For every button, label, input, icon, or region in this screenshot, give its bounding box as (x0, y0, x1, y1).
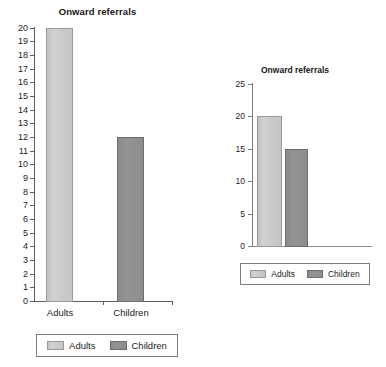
y-tick-mark (248, 84, 253, 85)
y-tick-mark (30, 164, 35, 165)
y-tick-label: 4 (6, 242, 28, 251)
y-tick-label: 15 (6, 92, 28, 101)
y-tick-label: 20 (223, 112, 245, 121)
y-tick-label: 1 (6, 283, 28, 292)
y-tick-label: 6 (6, 215, 28, 224)
y-tick-label: 20 (6, 24, 28, 33)
y-tick-label: 12 (6, 133, 28, 142)
y-tick-mark (248, 149, 253, 150)
legend-label-adults: Adults (69, 341, 95, 351)
y-tick-label: 9 (6, 174, 28, 183)
y-tick-mark (30, 82, 35, 83)
y-tick-mark (30, 260, 35, 261)
y-tick-mark (30, 123, 35, 124)
legend-label-adults: Adults (271, 269, 295, 279)
y-tick-mark (30, 28, 35, 29)
y-tick-mark (30, 274, 35, 275)
y-tick-mark (30, 192, 35, 193)
bar-chart-left: Onward referrals 0 1 2 3 4 5 6 7 8 9 10 … (0, 0, 195, 367)
y-tick-label: 18 (6, 51, 28, 60)
y-tick-label: 15 (223, 145, 245, 154)
y-tick-mark (30, 178, 35, 179)
y-tick-mark (30, 96, 35, 97)
x-category-label-adults: Adults (30, 307, 90, 318)
y-tick-mark (248, 214, 253, 215)
y-tick-mark (30, 233, 35, 234)
chart-title: Onward referrals (0, 6, 195, 17)
y-tick-mark (30, 287, 35, 288)
legend-swatch-children-icon (110, 341, 127, 350)
y-tick-mark (30, 246, 35, 247)
y-tick-mark (30, 205, 35, 206)
legend-swatch-adults-icon (47, 341, 64, 350)
chart-legend: Adults Children (240, 263, 370, 285)
y-tick-label: 2 (6, 270, 28, 279)
chart-legend: Adults Children (36, 334, 178, 357)
y-tick-label: 14 (6, 106, 28, 115)
y-tick-mark (30, 301, 35, 302)
y-tick-label: 10 (6, 160, 28, 169)
x-category-label-children: Children (100, 307, 162, 318)
y-tick-label: 0 (223, 242, 245, 251)
y-tick-label: 3 (6, 256, 28, 265)
legend-item-adults[interactable]: Adults (47, 341, 95, 351)
y-tick-label: 16 (6, 78, 28, 87)
y-tick-label: 19 (6, 37, 28, 46)
legend-label-children: Children (328, 269, 360, 279)
y-tick-label: 10 (223, 177, 245, 186)
legend-swatch-children-icon (307, 270, 323, 278)
y-tick-label: 13 (6, 119, 28, 128)
y-tick-mark (30, 110, 35, 111)
y-tick-mark (30, 219, 35, 220)
y-tick-mark (30, 55, 35, 56)
legend-label-children: Children (132, 341, 167, 351)
bar-adults (257, 116, 282, 247)
bar-children (285, 149, 308, 247)
y-tick-label: 5 (6, 229, 28, 238)
y-axis-line (252, 83, 253, 247)
x-tick-mark (172, 301, 173, 305)
bar-children (117, 137, 144, 302)
y-tick-label: 5 (223, 210, 245, 219)
y-tick-mark (248, 116, 253, 117)
y-tick-mark (248, 246, 253, 247)
bar-chart-right: Onward referrals 0 5 10 15 20 25 Adults … (195, 0, 386, 367)
y-tick-mark (30, 69, 35, 70)
y-tick-label: 17 (6, 65, 28, 74)
x-tick-mark (103, 301, 104, 305)
y-tick-label: 8 (6, 188, 28, 197)
chart-title: Onward referrals (235, 65, 355, 75)
y-tick-mark (30, 137, 35, 138)
legend-item-children[interactable]: Children (307, 269, 360, 279)
y-tick-mark (30, 41, 35, 42)
legend-item-children[interactable]: Children (110, 341, 167, 351)
y-tick-label: 11 (6, 147, 28, 156)
y-tick-mark (248, 181, 253, 182)
y-tick-mark (30, 151, 35, 152)
bar-adults (46, 28, 73, 302)
legend-swatch-adults-icon (250, 270, 266, 278)
y-tick-label: 0 (6, 297, 28, 306)
y-tick-label: 25 (223, 80, 245, 89)
legend-item-adults[interactable]: Adults (250, 269, 295, 279)
y-tick-label: 7 (6, 201, 28, 210)
